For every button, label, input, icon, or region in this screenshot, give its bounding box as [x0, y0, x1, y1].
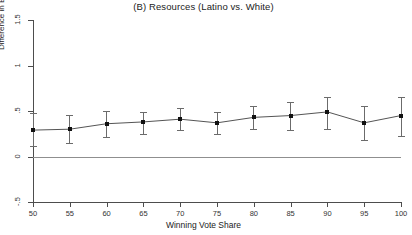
chart-title: (B) Resources (Latino vs. White)	[0, 1, 407, 12]
data-point-marker	[215, 121, 219, 125]
data-point-marker	[289, 114, 293, 118]
error-bar-cap	[30, 113, 37, 114]
x-tick-mark	[364, 202, 365, 207]
x-tick-mark	[291, 202, 292, 207]
error-bar-cap	[361, 140, 368, 141]
error-bar-cap	[287, 130, 294, 131]
x-tick-label: 60	[95, 209, 119, 218]
error-bar-cap	[103, 137, 110, 138]
error-bar-cap	[103, 111, 110, 112]
x-tick-label: 75	[205, 209, 229, 218]
error-bar-cap	[30, 146, 37, 147]
x-axis-label: Winning Vote Share	[0, 220, 407, 230]
x-tick-mark	[143, 202, 144, 207]
data-point-marker	[325, 110, 329, 114]
x-tick-label: 100	[389, 209, 412, 218]
x-tick-mark	[70, 202, 71, 207]
x-tick-label: 80	[242, 209, 266, 218]
x-tick-label: 50	[21, 209, 45, 218]
data-point-marker	[31, 128, 35, 132]
x-tick-mark	[401, 202, 402, 207]
data-point-marker	[68, 127, 72, 131]
data-point-marker	[178, 117, 182, 121]
error-bar-cap	[66, 143, 73, 144]
x-tick-mark	[107, 202, 108, 207]
data-point-marker	[141, 120, 145, 124]
x-tick-label: 90	[315, 209, 339, 218]
error-bar-cap	[398, 97, 405, 98]
error-bar-cap	[361, 106, 368, 107]
error-bar-cap	[140, 134, 147, 135]
data-point-marker	[252, 115, 256, 119]
data-point-marker	[399, 114, 403, 118]
error-bar-cap	[250, 129, 257, 130]
error-bar-cap	[177, 108, 184, 109]
y-tick-label: 0	[13, 146, 22, 166]
error-bar-cap	[398, 136, 405, 137]
x-tick-label: 70	[168, 209, 192, 218]
plot-area	[33, 20, 401, 202]
error-bar-cap	[66, 115, 73, 116]
y-axis-label: Difference in Effect of Resources	[0, 0, 6, 50]
y-tick-label: .5	[13, 101, 22, 121]
error-bar-cap	[140, 112, 147, 113]
error-bar-cap	[214, 134, 221, 135]
x-tick-mark	[180, 202, 181, 207]
error-bar-cap	[324, 129, 331, 130]
y-tick-label: 1	[13, 55, 22, 75]
error-bar-cap	[250, 106, 257, 107]
y-tick-label: 1.5	[13, 10, 22, 30]
x-tick-label: 55	[58, 209, 82, 218]
x-tick-label: 65	[131, 209, 155, 218]
x-tick-mark	[327, 202, 328, 207]
x-tick-mark	[217, 202, 218, 207]
x-tick-mark	[254, 202, 255, 207]
x-tick-mark	[33, 202, 34, 207]
error-bar-cap	[177, 130, 184, 131]
error-bar-cap	[214, 112, 221, 113]
x-tick-label: 85	[279, 209, 303, 218]
x-tick-label: 95	[352, 209, 376, 218]
error-bar-cap	[324, 97, 331, 98]
error-bar-cap	[287, 102, 294, 103]
data-point-marker	[105, 122, 109, 126]
data-point-marker	[362, 121, 366, 125]
